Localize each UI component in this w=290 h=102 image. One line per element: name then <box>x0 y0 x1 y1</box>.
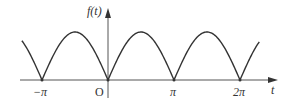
tick-label-pi: π <box>170 85 176 100</box>
tick-label-neg-pi: −π <box>33 85 47 100</box>
x-axis-label: t <box>271 83 274 98</box>
tick-origin <box>107 79 110 82</box>
tick-neg-pi <box>41 79 44 82</box>
tick-label-origin: O <box>95 85 104 100</box>
y-axis-label: f(t) <box>87 4 102 19</box>
tick-two-pi <box>239 79 242 82</box>
y-axis-arrow-icon <box>105 8 111 18</box>
tick-label-two-pi: 2π <box>233 85 245 100</box>
tick-pi <box>173 79 176 82</box>
abs-sine-curve <box>22 32 259 80</box>
